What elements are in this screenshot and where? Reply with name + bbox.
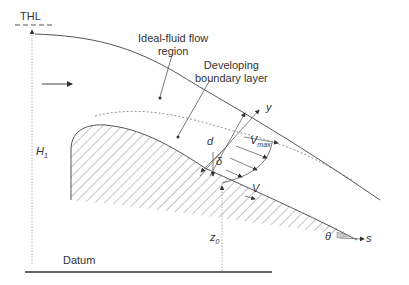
vmax-label: Vmax — [250, 134, 271, 149]
theta-label: θ — [325, 230, 331, 243]
z0-label: z0 — [210, 231, 219, 246]
developing-leader — [178, 80, 210, 136]
h1-label: H1 — [36, 145, 48, 160]
thl-label: THL — [20, 10, 41, 23]
datum-label: Datum — [63, 254, 95, 267]
ideal-fluid-label: Ideal-fluid flow region — [138, 32, 208, 57]
delta-label: δ — [216, 155, 222, 168]
v-label: V — [252, 182, 259, 195]
ideal-fluid-leader — [160, 55, 172, 97]
s-axis — [340, 238, 364, 239]
y-axis-label: y — [266, 101, 272, 114]
s-axis-label: s — [366, 232, 372, 245]
developing-label: Developing boundary layer — [195, 59, 268, 84]
boundary-layer-diagram: THL Ideal-fluid flow region Developing b… — [0, 0, 409, 285]
d-label: d — [207, 135, 213, 148]
